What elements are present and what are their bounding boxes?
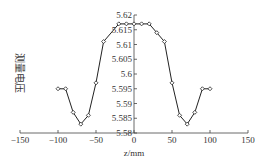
y-tick-label: 5.59 (116, 99, 132, 109)
x-tick-label: 50 (168, 135, 178, 145)
y-tick-label: 5.61 (116, 40, 132, 50)
y-tick-label: 5.605 (112, 54, 133, 64)
data-point-marker (64, 87, 68, 91)
y-tick-label: 5.62 (116, 10, 132, 20)
x-tick-label: −100 (49, 135, 68, 145)
data-point-marker (170, 81, 174, 85)
x-tick-label: −50 (89, 135, 104, 145)
x-tick-label: 100 (203, 135, 217, 145)
y-tick-label: 5.6 (121, 69, 133, 79)
x-tick-label: 150 (241, 135, 255, 145)
data-point-marker (132, 22, 136, 26)
data-point-marker (94, 81, 98, 85)
y-axis: 5.585.5855.595.5955.65.6055.615.6155.62 (112, 10, 137, 138)
line-chart: −150−100−50050100150 5.585.5855.595.5955… (0, 0, 265, 162)
data-point-marker (140, 22, 144, 26)
x-axis: −150−100−50050100150 (11, 130, 256, 145)
y-tick-label: 5.585 (112, 113, 133, 123)
data-point-marker (200, 87, 204, 91)
y-tick-label: 5.615 (112, 25, 133, 35)
x-tick-label: 0 (132, 135, 137, 145)
y-tick-label: 5.595 (112, 84, 133, 94)
data-point-marker (208, 87, 212, 91)
y-axis-label: 测量电压 (14, 53, 26, 93)
y-tick-label: 5.58 (116, 128, 132, 138)
x-tick-label: −150 (11, 135, 30, 145)
data-point-marker (56, 87, 60, 91)
x-axis-label: z/mm (124, 148, 145, 158)
